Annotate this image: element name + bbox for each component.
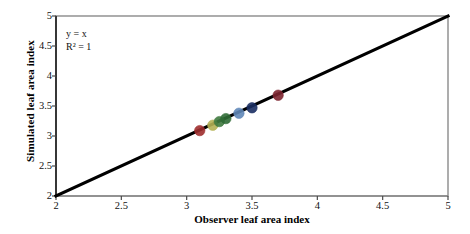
y-tick-label: 4.5 (24, 41, 52, 51)
chart-annotations: y = x R² = 1 (60, 27, 91, 53)
y-tick-label: 3.5 (24, 101, 52, 111)
x-tick-label: 5 (428, 200, 468, 211)
chart-figure: Simulated leaf area index Observer leaf … (0, 0, 470, 234)
x-tick-label: 2 (36, 200, 76, 211)
x-tick-label: 2.5 (101, 200, 141, 211)
y-tick-label: 3 (24, 131, 52, 141)
x-tick-label: 4 (297, 200, 337, 211)
x-tick-label: 4.5 (363, 200, 403, 211)
data-point[interactable] (247, 103, 257, 113)
annotation-equation: y = x (60, 27, 91, 40)
y-tick-label: 4 (24, 71, 52, 81)
x-tick-label: 3.5 (232, 200, 272, 211)
x-axis-label: Observer leaf area index (56, 213, 448, 225)
data-point[interactable] (234, 108, 244, 118)
x-tick-labels: 22.533.544.55 (0, 200, 470, 214)
data-point[interactable] (221, 113, 231, 123)
data-point[interactable] (273, 90, 283, 100)
data-point[interactable] (195, 125, 205, 135)
y-tick-label: 5 (24, 11, 52, 21)
x-tick-label: 3 (167, 200, 207, 211)
annotation-r-squared: R² = 1 (60, 40, 91, 53)
y-tick-label: 2.5 (24, 161, 52, 171)
y-tick-labels: 22.533.544.55 (14, 0, 52, 234)
